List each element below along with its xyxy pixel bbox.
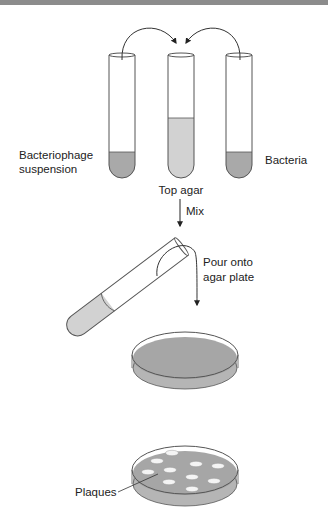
- pour-label-line1: Pour onto: [203, 256, 253, 268]
- pour-label-line2: agar plate: [203, 271, 254, 283]
- plaque: [212, 463, 225, 468]
- plaques-label: Plaques: [75, 486, 117, 498]
- top-agar-liquid: [168, 118, 194, 178]
- plaque: [164, 467, 177, 472]
- plaque: [186, 486, 199, 491]
- bacteria-tube: [226, 53, 252, 178]
- plaque: [163, 479, 176, 484]
- mix-label: Mix: [186, 205, 204, 217]
- plaque: [186, 474, 199, 479]
- top-agar-tube: [168, 53, 194, 178]
- bacteriophage-label-line2: suspension: [19, 163, 77, 175]
- bacteria-label: Bacteria: [265, 154, 308, 166]
- bacteriophage-tube: [109, 53, 135, 178]
- plaque-assay-diagram: Bacteriophage suspension Bacteria Top ag…: [0, 0, 328, 525]
- tilted-tube: [62, 237, 189, 341]
- plaque: [151, 458, 164, 463]
- top-agar-label: Top agar: [159, 184, 204, 196]
- agar-plate: [132, 332, 238, 389]
- plaque: [142, 469, 155, 474]
- bacteriophage-label-line1: Bacteriophage: [19, 149, 93, 161]
- plaque-plate: [132, 446, 238, 506]
- plaque: [190, 461, 203, 466]
- plaque: [166, 450, 179, 455]
- plaque: [208, 478, 221, 483]
- pour-arrow: [157, 246, 197, 305]
